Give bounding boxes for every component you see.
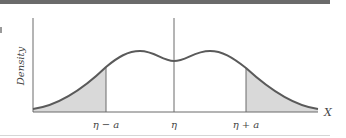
x-axis-label: X	[323, 106, 333, 119]
left-tail-shade	[33, 67, 106, 112]
density-chart: Density X η − a η η + a	[0, 0, 346, 138]
y-axis-label: Density	[15, 46, 26, 86]
bottom-rule	[0, 135, 330, 136]
tick-eta-plus-a: η + a	[233, 119, 260, 130]
tick-eta-minus-a: η − a	[93, 119, 120, 130]
right-tail-shade	[246, 68, 318, 112]
tick-eta: η	[171, 119, 177, 130]
